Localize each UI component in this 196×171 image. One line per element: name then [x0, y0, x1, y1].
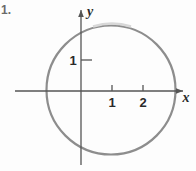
x-tick-label-2: 2 — [139, 95, 146, 110]
y-tick-label-1: 1 — [69, 53, 76, 68]
figure-container: 1 2 1 x y 1. — [0, 0, 196, 171]
x-axis-label: x — [182, 90, 190, 105]
problem-number-marker: 1. — [1, 3, 11, 17]
y-axis-label: y — [85, 4, 94, 19]
coordinate-plot: 1 2 1 x y 1. — [0, 0, 196, 171]
x-tick-label-1: 1 — [108, 95, 115, 110]
